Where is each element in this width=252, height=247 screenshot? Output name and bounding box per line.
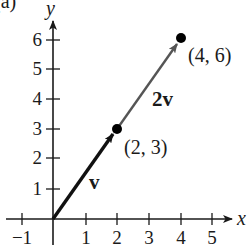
vector-label-v: v (89, 170, 100, 194)
y-tick-label: 3 (33, 118, 43, 139)
vector-scaling-diagram: (a) x −1 1 2 3 4 5 y (0, 0, 252, 247)
point-label-2-3: (2, 3) (124, 136, 167, 159)
x-axis: x −1 1 2 3 4 5 (6, 207, 246, 247)
x-tick-label: −1 (12, 227, 32, 247)
y-tick-label: 4 (33, 88, 43, 109)
x-tick-label: 4 (176, 227, 186, 247)
point-label-4-6: (4, 6) (188, 44, 231, 67)
vector-label-2v: 2v (152, 87, 174, 111)
x-tick-label: 5 (207, 227, 217, 247)
y-tick-label: 2 (33, 147, 43, 168)
vector-v (53, 134, 113, 219)
x-tick-label: 2 (112, 227, 122, 247)
y-axis-label: y (44, 0, 55, 20)
y-tick-label: 1 (33, 178, 43, 199)
x-tick-label: 3 (144, 227, 154, 247)
point-4-6 (176, 33, 186, 43)
x-tick-label: 1 (81, 227, 91, 247)
y-tick-label: 6 (33, 29, 43, 50)
y-axis: y 1 2 3 4 5 6 (33, 0, 61, 245)
y-tick-label: 5 (33, 58, 43, 79)
panel-label: (a) (0, 0, 16, 13)
point-2-3 (112, 124, 122, 134)
x-axis-label: x (236, 207, 246, 229)
